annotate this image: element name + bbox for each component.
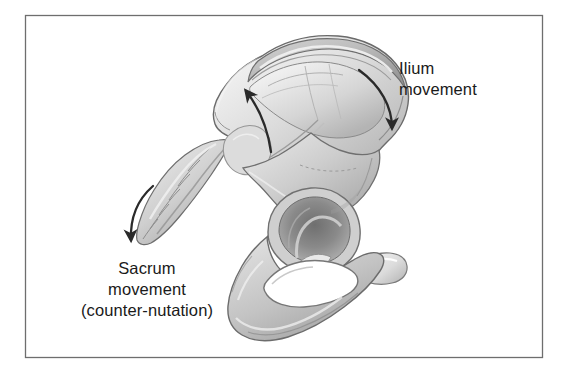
- sacrum-movement-label-line2: movement: [78, 279, 216, 300]
- ilium-movement-label-line1: Ilium: [399, 58, 477, 79]
- sacrum-movement-label-line3: (counter-nutation): [78, 300, 216, 321]
- ilium-movement-label-line2: movement: [399, 79, 477, 100]
- sacrum-movement-label-line1: Sacrum: [78, 258, 216, 279]
- ilium-movement-label: Ilium movement: [399, 58, 477, 100]
- anatomical-figure: Ilium movement Sacrum movement (counter-…: [0, 0, 566, 375]
- sacrum-movement-label: Sacrum movement (counter-nutation): [78, 258, 216, 321]
